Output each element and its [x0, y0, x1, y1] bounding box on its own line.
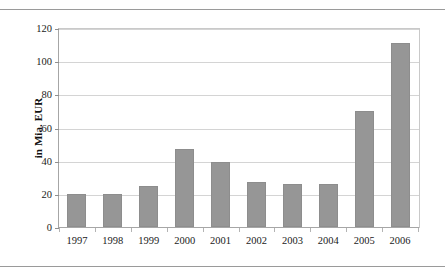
page-bottom-artifact-text: . . . .. . . . . .: [0, 257, 445, 265]
page-bottom-rule: [0, 266, 445, 267]
bar-slot: [203, 28, 239, 227]
x-axis-tick-label: 2003: [274, 236, 310, 247]
bar[interactable]: [247, 182, 266, 227]
bar-slot: [310, 28, 346, 227]
x-axis-tick: [59, 228, 95, 233]
x-axis-tick: [310, 228, 346, 233]
x-axis-tick-label: 2002: [239, 236, 275, 247]
x-axis-tick: [274, 228, 310, 233]
y-axis-tick-label: 40: [42, 156, 53, 167]
x-axis-tick: [131, 228, 167, 233]
x-axis-tick-label: 1997: [59, 236, 95, 247]
bar[interactable]: [67, 194, 86, 227]
bar[interactable]: [103, 194, 122, 227]
page-top-artifact-text: . . . . . . . .: [0, 1, 445, 9]
x-axis-tick-label: 1998: [95, 236, 131, 247]
x-axis-tick: [346, 228, 382, 233]
x-axis-tick: [239, 228, 275, 233]
bar[interactable]: [211, 162, 230, 227]
bar-slot: [59, 28, 95, 227]
bar-slot: [274, 28, 310, 227]
x-axis-tick-label: 2006: [382, 236, 418, 247]
bar-slot: [382, 28, 418, 227]
bar-slot: [346, 28, 382, 227]
bar-chart: in Mia. EUR 020406080100120 199719981999…: [0, 10, 445, 265]
y-axis-tick-label: 120: [36, 24, 52, 35]
x-axis-tick: [203, 228, 239, 233]
bar[interactable]: [355, 111, 374, 227]
bar-slot: [95, 28, 131, 227]
bar-slot: [131, 28, 167, 227]
x-axis-tick-label: 1999: [131, 236, 167, 247]
y-axis-tick-label: 100: [36, 57, 52, 68]
y-axis-tick-label: 20: [42, 190, 53, 201]
bar[interactable]: [283, 184, 302, 227]
x-axis-tick: [382, 228, 418, 233]
x-axis-tick-label: 2005: [346, 236, 382, 247]
bar-slot: [239, 28, 275, 227]
y-axis-tick-label: 80: [42, 90, 53, 101]
bar[interactable]: [139, 186, 158, 227]
bar[interactable]: [319, 184, 338, 227]
bar-slot: [167, 28, 203, 227]
x-axis-tick: [167, 228, 203, 233]
y-axis-tick-label: 0: [47, 223, 52, 234]
x-axis-ticks: [59, 228, 418, 233]
x-axis-tick-label: 2004: [310, 236, 346, 247]
x-axis-tick-label: 2001: [203, 236, 239, 247]
bar[interactable]: [175, 149, 194, 227]
y-axis-tick-label: 60: [42, 123, 53, 134]
bars-layer: [59, 28, 418, 227]
x-axis-labels: 1997199819992000200120022003200420052006: [59, 236, 418, 247]
bar[interactable]: [391, 43, 410, 227]
x-axis-tick: [95, 228, 131, 233]
x-axis-tick-label: 2000: [167, 236, 203, 247]
